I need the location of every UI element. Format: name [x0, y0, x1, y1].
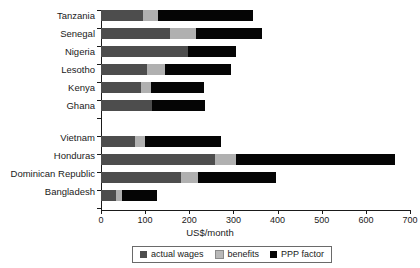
bar-segment-benefits: [147, 64, 165, 75]
x-axis-line: [101, 210, 410, 211]
bar-segment-ppp-factor: [236, 154, 395, 165]
y-tick-mark: [97, 118, 101, 119]
y-axis-label-senegal: Senegal: [60, 28, 95, 39]
bar-segment-actual-wages: [101, 100, 152, 111]
bar-segment-ppp-factor: [145, 136, 221, 147]
bar-segment-ppp-factor: [188, 46, 236, 57]
y-tick-mark: [97, 208, 101, 209]
bar-segment-actual-wages: [101, 172, 181, 183]
y-axis-label-bangladesh: Bangladesh: [45, 186, 95, 197]
bar-segment-actual-wages: [101, 46, 188, 57]
legend-item-benefits: benefits: [215, 249, 260, 260]
y-axis-label-vietnam: Vietnam: [60, 132, 95, 143]
y-axis-label-lesotho: Lesotho: [61, 64, 95, 75]
y-axis-label-honduras: Honduras: [54, 150, 95, 161]
bar-segment-actual-wages: [101, 10, 143, 21]
bar-segment-ppp-factor: [122, 190, 157, 201]
bar-segment-ppp-factor: [152, 100, 205, 111]
bar-segment-ppp-factor: [196, 28, 262, 39]
bar-segment-benefits: [143, 10, 158, 21]
bar-segment-actual-wages: [101, 190, 116, 201]
benefits-swatch-icon: [215, 250, 224, 259]
bar-segment-actual-wages: [101, 136, 135, 147]
bar-segment-ppp-factor: [151, 82, 204, 93]
plot-area: [101, 10, 410, 210]
stacked-bar-chart: Tanzania Senegal Nigeria Lesotho Kenya G…: [0, 0, 420, 268]
bar-segment-benefits: [170, 28, 196, 39]
x-tick-label-200: 200: [169, 215, 209, 226]
x-tick-mark: [233, 210, 234, 214]
x-tick-label-600: 600: [346, 215, 386, 226]
ppp-swatch-icon: [270, 251, 277, 258]
x-tick-label-0: 0: [81, 215, 121, 226]
x-tick-mark: [145, 210, 146, 214]
x-tick-label-400: 400: [258, 215, 298, 226]
x-tick-mark: [410, 210, 411, 214]
x-tick-mark: [322, 210, 323, 214]
bar-segment-ppp-factor: [165, 64, 231, 75]
x-tick-label-500: 500: [302, 215, 342, 226]
x-tick-mark: [366, 210, 367, 214]
x-tick-mark: [189, 210, 190, 214]
legend-label-benefits: benefits: [228, 249, 260, 260]
legend-label-actual-wages: actual wages: [151, 249, 204, 260]
legend-item-ppp-factor: PPP factor: [270, 249, 324, 260]
wages-swatch-icon: [140, 251, 147, 258]
bar-segment-ppp-factor: [158, 10, 253, 21]
y-axis-label-tanzania: Tanzania: [57, 10, 95, 21]
x-tick-label-700: 700: [390, 215, 420, 226]
y-axis-label-kenya: Kenya: [68, 82, 95, 93]
bar-segment-benefits: [181, 172, 198, 183]
y-axis-label-nigeria: Nigeria: [65, 46, 95, 57]
x-axis-title: US$/month: [0, 227, 420, 238]
y-axis-category-labels: Tanzania Senegal Nigeria Lesotho Kenya G…: [0, 10, 97, 210]
x-tick-label-300: 300: [213, 215, 253, 226]
legend-label-ppp-factor: PPP factor: [281, 249, 324, 260]
x-tick-mark: [101, 210, 102, 214]
bar-segment-actual-wages: [101, 28, 170, 39]
bar-segment-actual-wages: [101, 154, 215, 165]
x-tick-label-100: 100: [125, 215, 165, 226]
bar-segment-benefits: [141, 82, 151, 93]
bar-segment-ppp-factor: [198, 172, 276, 183]
bar-segment-benefits: [135, 136, 145, 147]
x-tick-mark: [278, 210, 279, 214]
y-axis-label-dominican-republic: Dominican Republic: [11, 168, 95, 179]
bar-segment-actual-wages: [101, 64, 147, 75]
legend-item-actual-wages: actual wages: [140, 249, 204, 260]
bar-segment-actual-wages: [101, 82, 141, 93]
y-axis-label-ghana: Ghana: [66, 100, 95, 111]
chart-legend: actual wages benefits PPP factor: [132, 246, 332, 263]
bar-segment-benefits: [215, 154, 236, 165]
